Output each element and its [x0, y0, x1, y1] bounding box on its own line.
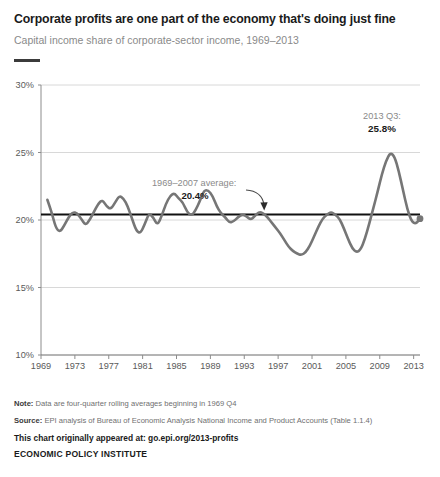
footnote-source: Source: EPI analysis of Bureau of Econom…	[14, 415, 430, 426]
y-tick-label-20: 20%	[16, 215, 34, 225]
x-tick-label-2009: 2009	[370, 361, 390, 371]
endpoint-marker	[417, 215, 424, 222]
y-tick-label-25: 25%	[16, 148, 34, 158]
y-axis-tick-labels: 10%15%20%25%30%	[16, 80, 41, 360]
y-tick-label-30: 30%	[16, 80, 34, 90]
chart-page: Corporate profits are one part of the ec…	[0, 0, 440, 477]
footnote-source-label: Source:	[14, 416, 42, 425]
x-tick-label-1969: 1969	[31, 361, 51, 371]
data-series-line	[47, 154, 420, 255]
y-tick-label-10: 10%	[16, 350, 34, 360]
footnote-note: Note: Data are four-quarter rolling aver…	[14, 398, 430, 409]
average-annotation-label: 1969–2007 average:	[152, 177, 238, 189]
x-tick-label-1981: 1981	[132, 361, 152, 371]
endpoint-annotation-value: 25.8%	[351, 122, 413, 135]
footnote-source-text: EPI analysis of Bureau of Economic Analy…	[42, 416, 372, 425]
average-annotation: 1969–2007 average: 20.4%	[152, 177, 238, 202]
series-path	[47, 154, 420, 255]
x-tick-label-2013: 2013	[403, 361, 423, 371]
average-annotation-value: 20.4%	[152, 189, 238, 202]
endpoint-dot	[417, 215, 424, 222]
x-tick-label-1977: 1977	[99, 361, 119, 371]
x-tick-label-1973: 1973	[65, 361, 85, 371]
annotation-arrow-head	[260, 202, 267, 210]
x-tick-label-1997: 1997	[268, 361, 288, 371]
footnote-origin: This chart originally appeared at: go.ep…	[14, 432, 430, 444]
footnote-note-text: Data are four-quarter rolling averages b…	[33, 399, 236, 408]
organization-name: ECONOMIC POLICY INSTITUTE	[14, 448, 430, 460]
endpoint-annotation: 2013 Q3: 25.8%	[351, 110, 413, 135]
x-axis-ticks	[41, 355, 414, 359]
x-tick-label-2001: 2001	[302, 361, 322, 371]
x-tick-label-2005: 2005	[336, 361, 356, 371]
y-tick-label-15: 15%	[16, 283, 34, 293]
annotation-arrow	[246, 190, 268, 211]
x-tick-label-1985: 1985	[166, 361, 186, 371]
x-axis-tick-labels: 1969197319771981198519891993199720012005…	[31, 361, 424, 371]
x-tick-label-1989: 1989	[200, 361, 220, 371]
chart-footnotes: Note: Data are four-quarter rolling aver…	[14, 398, 430, 460]
x-tick-label-1993: 1993	[234, 361, 254, 371]
endpoint-annotation-label: 2013 Q3:	[351, 110, 413, 122]
footnote-note-label: Note:	[14, 399, 33, 408]
